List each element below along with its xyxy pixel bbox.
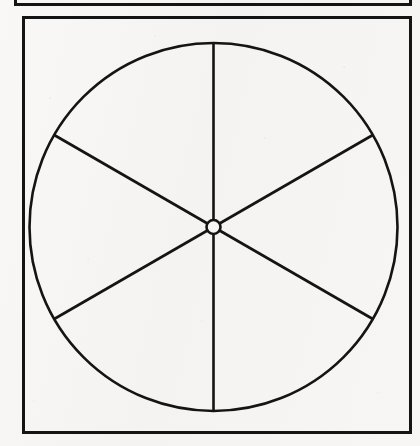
spoke-upper-right-line: [214, 135, 373, 227]
upper-partial-frame-box: [16, 0, 411, 5]
spoke-lower-right-line: [214, 227, 373, 319]
center-hub-circle: [207, 220, 221, 234]
scanned-page: [0, 0, 420, 446]
figure-canvas: [0, 0, 420, 446]
spoke-lower-left-line: [54, 227, 213, 319]
spoke-upper-left-line: [54, 135, 213, 227]
six-sector-circle-diagram: [30, 43, 398, 411]
